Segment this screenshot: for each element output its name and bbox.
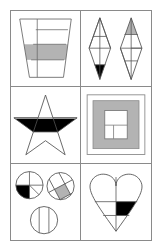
rhombus-left <box>89 18 111 80</box>
circle-quartered <box>16 171 43 198</box>
cell-nested-squares: Square frame with gray ring and white in… <box>81 87 151 163</box>
heart-shape <box>81 164 151 240</box>
rhombus-pair-shape <box>81 11 151 86</box>
star-shaded-band <box>11 119 80 132</box>
figure-frame: Geometric shapes grid with shaded fracti… <box>10 10 152 241</box>
rhombus-right <box>120 18 142 80</box>
three-circles-shape <box>11 164 80 240</box>
cell-star: Five-pointed star with black horizontal … <box>11 87 81 163</box>
figure-canvas: Geometric shapes grid with shaded fracti… <box>0 0 161 250</box>
rhombus-left-internal-lines <box>89 18 111 80</box>
cell-trapezoid: Trapezoid divided into parts with one gr… <box>11 11 81 87</box>
nested-squares-shape <box>81 87 151 162</box>
circle-thirds-outline <box>30 206 57 233</box>
shape-grid: Trapezoid divided into parts with one gr… <box>11 11 151 240</box>
cell-heart: Heart divided by vertical and horizontal… <box>81 164 151 240</box>
circle-rotated-grid <box>39 164 80 208</box>
heart-shaded-region <box>116 201 151 215</box>
cell-circles: Three circles: quartered with black quar… <box>11 164 81 240</box>
star-shape <box>11 87 80 162</box>
rhombus-right-internal-lines <box>120 18 142 80</box>
trapezoid-shaded-band <box>11 44 80 60</box>
trapezoid-shape <box>11 11 80 86</box>
inner-white-rectangle <box>105 111 128 139</box>
cell-rhombuses: Two diamonds: left has black bottom tip,… <box>81 11 151 87</box>
circle-vertical-thirds <box>30 206 57 233</box>
